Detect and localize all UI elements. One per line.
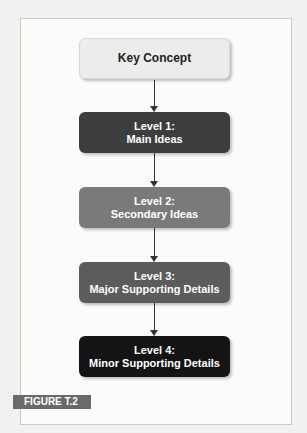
connector (154, 80, 155, 106)
node-level-4: Level 4: Minor Supporting Details (79, 336, 230, 377)
node-level: Level 2: (134, 195, 175, 208)
connector (154, 228, 155, 256)
node-level-1: Level 1: Main Ideas (79, 112, 230, 153)
connector (154, 303, 155, 330)
connector (154, 153, 155, 181)
node-label: Minor Supporting Details (89, 357, 220, 370)
node-label: Major Supporting Details (89, 283, 219, 296)
node-level: Level 1: (134, 120, 175, 133)
node-level-3: Level 3: Major Supporting Details (79, 262, 230, 303)
node-key-concept: Key Concept (79, 38, 230, 79)
node-label: Key Concept (118, 52, 191, 65)
node-level-2: Level 2: Secondary Ideas (79, 187, 230, 228)
node-level: Level 4: (134, 344, 175, 357)
figure-label: FIGURE T.2 (13, 395, 91, 409)
node-label: Main Ideas (126, 133, 182, 146)
node-label: Secondary Ideas (111, 208, 198, 221)
node-level: Level 3: (134, 270, 175, 283)
